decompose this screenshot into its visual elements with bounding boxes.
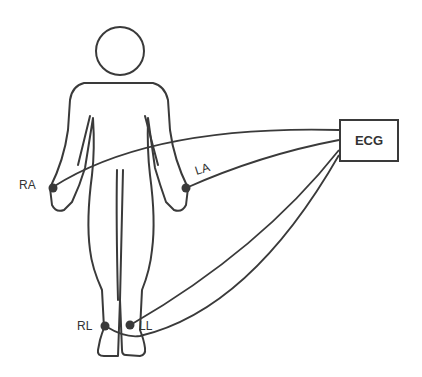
wires xyxy=(53,130,339,337)
body-outline xyxy=(50,83,188,356)
ecg-diagram xyxy=(0,0,422,377)
label-rl: RL xyxy=(77,319,92,333)
ecg-device: ECG xyxy=(339,119,399,162)
label-ra: RA xyxy=(19,178,36,192)
electrode-ll xyxy=(126,321,135,330)
wire-ra xyxy=(53,130,339,187)
electrode-ra xyxy=(49,184,58,193)
ecg-label: ECG xyxy=(355,133,383,148)
label-ll: LL xyxy=(139,319,152,333)
wire-ll xyxy=(132,150,339,324)
human-figure xyxy=(50,27,188,356)
electrode-la xyxy=(182,184,191,193)
head xyxy=(96,27,144,75)
electrode-rl xyxy=(101,322,110,331)
wire-la xyxy=(186,140,339,188)
leg-gap xyxy=(117,170,123,300)
inner-arm-right xyxy=(78,116,90,165)
